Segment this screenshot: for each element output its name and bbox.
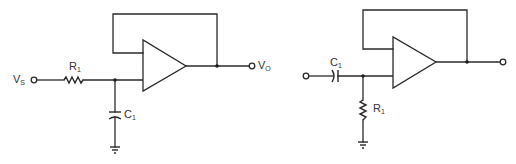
right-r1-label: R1 (373, 103, 385, 115)
left-ground-icon (110, 147, 120, 153)
right-output-junction (465, 60, 469, 64)
left-input-label: VS (13, 74, 25, 86)
left-input-terminal (31, 77, 37, 83)
left-input-label-sub: S (20, 79, 25, 86)
right-circuit (303, 10, 506, 148)
circuit-diagram (0, 0, 516, 164)
left-r1-label-sub: 1 (77, 66, 81, 73)
left-circuit (31, 14, 255, 153)
left-r1-label: R1 (69, 61, 81, 73)
right-c1-label-sub: 1 (338, 62, 342, 69)
right-c1-label: C1 (330, 57, 342, 69)
left-opamp-icon (143, 40, 186, 91)
right-r1-resistor-icon (360, 100, 366, 120)
left-c1-label-main: C (124, 108, 132, 120)
left-output-label: VO (258, 60, 271, 72)
right-input-terminal (303, 73, 309, 79)
right-r1-label-sub: 1 (381, 108, 385, 115)
right-ground-icon (358, 142, 368, 148)
right-r1-label-main: R (373, 102, 381, 114)
left-r1-resistor-icon (64, 77, 83, 83)
left-output-terminal (249, 63, 255, 69)
right-opamp-icon (393, 37, 436, 88)
right-c1-label-main: C (330, 56, 338, 68)
left-r1-label-main: R (69, 60, 77, 72)
left-c1-label: C1 (124, 109, 136, 121)
left-output-label-sub: O (265, 65, 270, 72)
right-output-terminal (500, 59, 506, 65)
left-c1-label-sub: 1 (132, 114, 136, 121)
left-output-junction (215, 64, 219, 68)
